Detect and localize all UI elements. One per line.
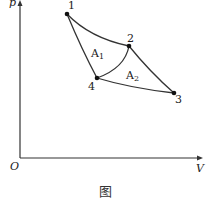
region-label-a2: A2 [125, 69, 139, 83]
p-axis-label: p [9, 0, 16, 9]
point-label-4: 4 [88, 80, 95, 93]
point-label-2: 2 [127, 32, 134, 45]
point-label-1: 1 [68, 0, 75, 12]
figure-caption: 图 [0, 181, 211, 200]
curve-2-3 [129, 46, 174, 93]
curve-1-4 [67, 14, 97, 78]
curve-1-2 [67, 14, 129, 46]
v-axis-label: V [196, 162, 205, 175]
point-1 [65, 12, 70, 17]
point-4 [95, 76, 100, 81]
p-axis-arrow-icon [18, 0, 23, 6]
v-axis-arrow-icon [197, 156, 203, 161]
curve-2-4 [97, 46, 129, 78]
origin-label: O [10, 160, 19, 173]
pv-diagram: 1 2 3 4 A1 A2 p V O [0, 0, 211, 200]
region-label-a1: A1 [90, 47, 104, 61]
point-label-3: 3 [175, 93, 182, 106]
